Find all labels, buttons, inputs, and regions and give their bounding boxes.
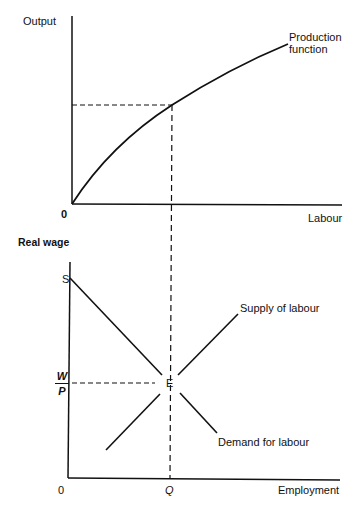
- point-s-label: S: [62, 273, 69, 285]
- employment-axis-label: Employment: [278, 484, 339, 496]
- point-e-label: E: [166, 377, 173, 389]
- top-x-axis: [72, 204, 342, 205]
- wage-numerator: W: [55, 370, 69, 382]
- output-axis-label: Output: [23, 15, 56, 27]
- real-wage-axis-label: Real wage: [18, 236, 69, 248]
- labour-axis-label: Labour: [308, 212, 342, 224]
- production-function-curve: [72, 44, 288, 204]
- wage-fraction: W P: [55, 370, 69, 397]
- supply-label: Supply of labour: [240, 302, 320, 314]
- demand-label: Demand for labour: [218, 436, 309, 448]
- wage-denominator: P: [55, 385, 69, 397]
- q-label: Q: [165, 484, 174, 496]
- production-function-label-1: Production: [289, 31, 342, 43]
- bottom-x-axis: [68, 478, 340, 480]
- demand-line-upper: [70, 278, 162, 375]
- vertical-dashed-q: [170, 105, 172, 478]
- diagram-canvas: [0, 0, 359, 510]
- bottom-origin-label: 0: [58, 484, 64, 496]
- top-origin-label: 0: [61, 208, 67, 220]
- production-function-label-2: function: [289, 43, 328, 55]
- fraction-bar: [55, 383, 69, 384]
- demand-line-lower: [180, 393, 217, 433]
- supply-line-upper: [178, 314, 238, 375]
- supply-line-lower: [106, 394, 160, 450]
